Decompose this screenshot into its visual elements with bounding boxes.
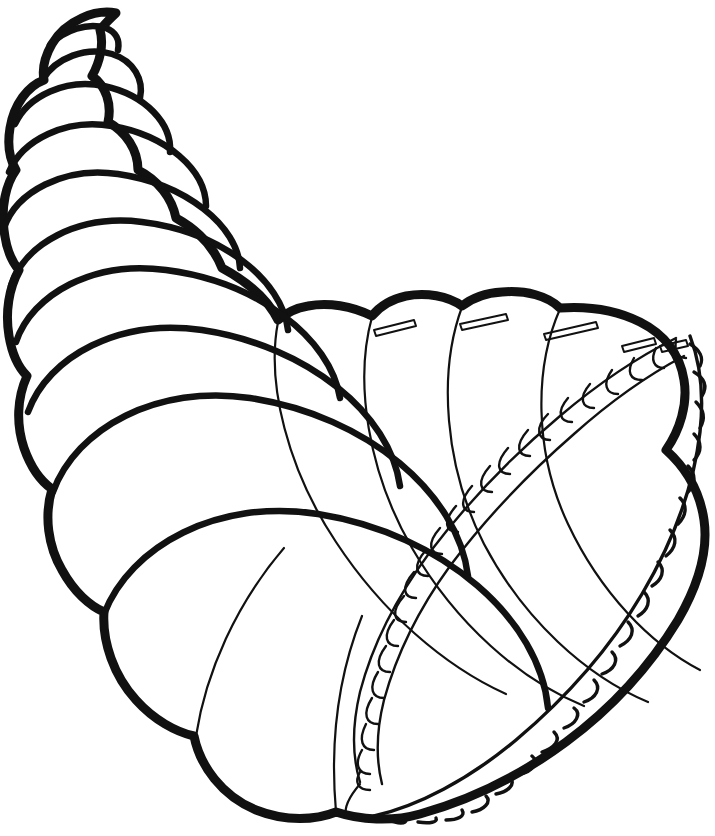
- coloring-page-canvas: screw shell / turret sea shell Black and…: [0, 0, 715, 836]
- seashell-line-art: [0, 0, 715, 836]
